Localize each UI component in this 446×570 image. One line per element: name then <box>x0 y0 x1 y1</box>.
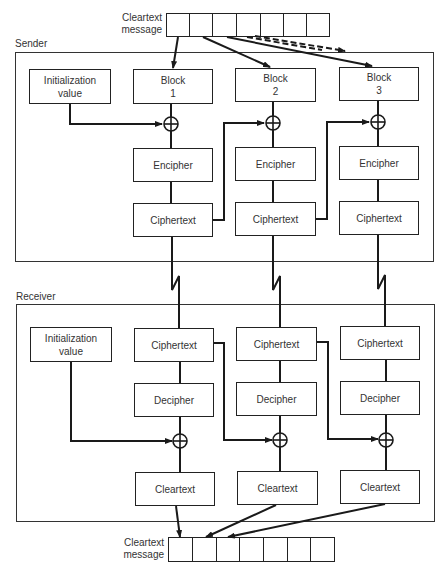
sender-encipher-2: Encipher <box>235 147 316 181</box>
receiver-ciphertext-3: Ciphertext <box>340 326 420 360</box>
receiver-decipher-3: Decipher <box>340 381 420 415</box>
init-line1: Initialization <box>44 74 96 87</box>
block-label: Block <box>367 71 391 84</box>
xor-icon <box>273 433 287 447</box>
receiver-ciphertext-2: Ciphertext <box>236 327 317 361</box>
receiver-init-value-box: Initialization value <box>30 327 112 362</box>
sender-ciphertext-2: Ciphertext <box>235 202 316 236</box>
sender-encipher-1: Encipher <box>133 148 213 182</box>
block-label: Block <box>161 74 185 87</box>
block-label: Block <box>263 72 287 85</box>
sender-encipher-3: Encipher <box>339 146 419 180</box>
sender-ciphertext-3: Ciphertext <box>339 201 419 235</box>
sender-block-1: Block 1 <box>133 69 213 104</box>
receiver-cleartext-1: Cleartext <box>135 472 215 506</box>
receiver-decipher-2: Decipher <box>236 382 317 416</box>
receiver-cleartext-2: Cleartext <box>237 471 318 505</box>
sender-block-2: Block 2 <box>235 68 316 102</box>
xor-icon <box>371 115 385 129</box>
block-number: 3 <box>376 84 382 97</box>
init-line2: value <box>59 345 83 358</box>
sender-init-value-box: Initialization value <box>29 69 111 104</box>
init-line1: Initialization <box>45 332 97 345</box>
receiver-ciphertext-1: Ciphertext <box>134 328 214 362</box>
receiver-decipher-1: Decipher <box>134 383 214 417</box>
xor-icon <box>173 434 187 448</box>
sender-ciphertext-1: Ciphertext <box>133 203 213 237</box>
init-line2: value <box>58 87 82 100</box>
sender-block-3: Block 3 <box>339 67 419 101</box>
receiver-cleartext-3: Cleartext <box>340 470 420 504</box>
xor-icon <box>164 117 178 131</box>
block-number: 2 <box>273 85 279 98</box>
xor-icon <box>266 116 280 130</box>
xor-icon <box>379 433 393 447</box>
block-number: 1 <box>170 87 176 100</box>
